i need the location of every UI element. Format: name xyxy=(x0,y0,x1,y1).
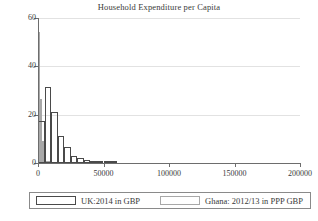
x-tick-label: 150000 xyxy=(223,170,247,178)
x-tick xyxy=(169,163,170,167)
chart-legend: UK:2014 in GBP Ghana: 2012/13 in PPP GBP xyxy=(29,192,311,209)
y-tick-label: 60 xyxy=(28,14,36,22)
chart-figure: Household Expenditure per Capita 0204060… xyxy=(0,0,318,221)
x-tick xyxy=(104,163,105,167)
legend-swatch-uk xyxy=(36,196,76,205)
legend-item-ghana: Ghana: 2012/13 in PPP GBP xyxy=(154,193,303,208)
legend-swatch-ghana xyxy=(160,196,200,205)
chart-title: Household Expenditure per Capita xyxy=(0,2,318,12)
legend-item-uk: UK:2014 in GBP xyxy=(30,193,140,208)
x-tick-label: 100000 xyxy=(157,170,181,178)
x-tick xyxy=(300,163,301,167)
x-tick-label: 200000 xyxy=(288,170,312,178)
x-tick xyxy=(235,163,236,167)
bars-layer xyxy=(38,18,300,163)
y-tick-label: 20 xyxy=(28,111,36,119)
y-tick-label: 0 xyxy=(32,159,36,167)
legend-label-uk: UK:2014 in GBP xyxy=(81,196,140,206)
x-tick-label: 50000 xyxy=(94,170,114,178)
y-tick-label: 40 xyxy=(28,62,36,70)
legend-label-ghana: Ghana: 2012/13 in PPP GBP xyxy=(205,196,303,206)
x-tick xyxy=(38,163,39,167)
y-axis-line xyxy=(38,18,39,164)
x-tick-label: 0 xyxy=(36,170,40,178)
bar xyxy=(64,147,71,163)
plot-area xyxy=(38,18,300,163)
